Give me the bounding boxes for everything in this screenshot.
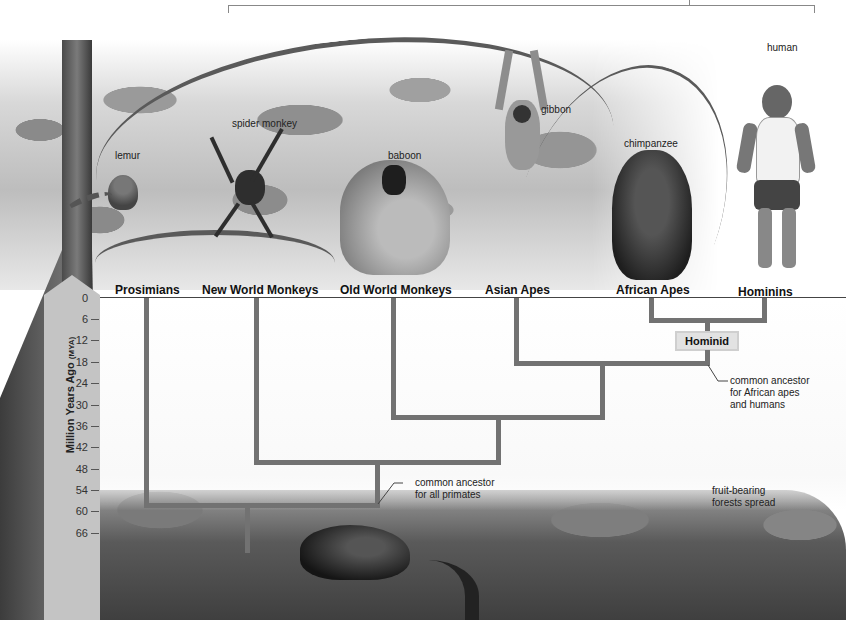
animal-label-human: human — [767, 42, 798, 53]
group-label-new-world-monkeys: New World Monkeys — [202, 283, 318, 297]
y-tick-0: 0 — [58, 292, 88, 304]
note-african-apes-humans: common ancestor for African apes and hum… — [730, 375, 809, 411]
note-line: forests spread — [712, 497, 775, 509]
y-tickmark-6 — [91, 319, 99, 320]
present-day-baseline — [100, 297, 846, 298]
join-all-primates — [144, 503, 380, 508]
group-label-asian-apes: Asian Apes — [485, 283, 550, 297]
y-tickmark-30 — [91, 405, 99, 406]
leader-line-all-primates — [370, 470, 410, 510]
y-tickmark-66 — [91, 533, 99, 534]
lineage-prosimians — [144, 298, 149, 507]
y-tick-36: 36 — [58, 420, 88, 432]
baboon-face — [382, 165, 406, 195]
y-tickmark-60 — [91, 511, 99, 512]
stem-catarrhines — [496, 415, 501, 464]
lineage-new-world-monkeys — [254, 298, 259, 464]
lineage-asian-apes — [514, 298, 519, 365]
y-tickmark-42 — [91, 447, 99, 448]
animal-label-lemur: lemur — [115, 150, 140, 161]
animal-label-spider-monkey: spider monkey — [232, 118, 297, 129]
note-line: common ancestor — [415, 477, 494, 489]
y-tick-48: 48 — [58, 463, 88, 475]
lineage-old-world-monkeys — [391, 298, 396, 419]
stem-apes — [600, 361, 605, 419]
hominid-clade-label: Hominid — [675, 331, 739, 351]
note-all-primates: common ancestor for all primates — [415, 477, 494, 501]
y-tick-24: 24 — [58, 377, 88, 389]
join-apes — [514, 361, 710, 366]
chimpanzee-illustration — [612, 150, 692, 280]
y-tick-6: 6 — [58, 313, 88, 325]
gibbon-illustration — [495, 50, 555, 200]
top-bracket-tick — [689, 0, 690, 5]
animal-label-chimpanzee: chimpanzee — [624, 138, 678, 149]
group-label-hominins: Hominins — [738, 285, 793, 299]
y-tick-54: 54 — [58, 484, 88, 496]
y-tick-12: 12 — [58, 334, 88, 346]
y-tick-60: 60 — [58, 505, 88, 517]
note-line: fruit-bearing — [712, 485, 775, 497]
stem-root — [245, 503, 250, 553]
y-tickmark-36 — [91, 426, 99, 427]
y-tick-30: 30 — [58, 399, 88, 411]
y-tick-18: 18 — [58, 356, 88, 368]
animal-label-gibbon: gibbon — [541, 104, 571, 115]
lemur-illustration — [108, 175, 138, 210]
spider-monkey-illustration — [210, 125, 290, 235]
y-tickmark-54 — [91, 490, 99, 491]
y-tickmark-48 — [91, 469, 99, 470]
group-label-old-world-monkeys: Old World Monkeys — [340, 283, 452, 297]
note-fruit-bearing-forests: fruit-bearing forests spread — [712, 485, 775, 509]
group-label-african-apes: African Apes — [616, 283, 690, 297]
y-tickmark-12 — [91, 340, 99, 341]
y-tick-42: 42 — [58, 441, 88, 453]
note-line: common ancestor — [730, 375, 809, 387]
animal-label-baboon: baboon — [388, 150, 421, 161]
top-bracket — [228, 5, 815, 13]
group-label-prosimians: Prosimians — [115, 283, 180, 297]
y-tickmark-18 — [91, 362, 99, 363]
y-tick-66: 66 — [58, 527, 88, 539]
note-line: for African apes — [730, 387, 809, 399]
note-line: and humans — [730, 399, 809, 411]
human-illustration — [740, 85, 815, 275]
note-line: for all primates — [415, 489, 494, 501]
y-tickmark-24 — [91, 383, 99, 384]
